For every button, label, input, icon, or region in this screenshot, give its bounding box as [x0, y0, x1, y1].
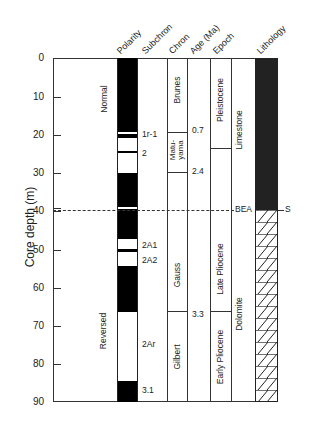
chron-label-brunes: Brunes [172, 70, 182, 110]
column-divider [231, 58, 232, 402]
tick-label: 70 [20, 320, 44, 331]
chron-boundary [167, 172, 187, 173]
limestone-pattern [255, 58, 278, 210]
epoch-boundary [210, 148, 231, 149]
chron-label-gauss: Gauss [172, 255, 182, 295]
polarity-normal-label: Normal [99, 79, 109, 119]
age-label: 0.7 [192, 125, 204, 135]
subchron-label: 2Ar [142, 339, 155, 349]
header-polarity: Polarity [115, 28, 143, 56]
plot-frame [53, 58, 278, 402]
tick-label: 0 [20, 52, 44, 63]
epoch-label-pleistocene: Pleistocene [215, 70, 225, 130]
tick-label: 20 [20, 129, 44, 140]
chron-boundary [167, 311, 187, 312]
lithology-label-dolomite: Dolomite [234, 293, 244, 335]
boundary-label-left: BEA [234, 204, 253, 214]
tick-label: 50 [20, 244, 44, 255]
dolomite-pattern [255, 210, 278, 402]
column-divider [187, 58, 188, 402]
tick-label: 30 [20, 167, 44, 178]
column-divider [210, 58, 211, 402]
tick-label: 90 [20, 396, 44, 407]
boundary-label-right: S [285, 204, 291, 214]
boundary-dashed-line-left [53, 210, 234, 211]
chron-label-matuyama: Matu-yama [169, 133, 185, 167]
epoch-boundary [210, 311, 231, 312]
polarity-column-border [117, 58, 138, 402]
chron-label-gilbert: Gilbert [172, 335, 182, 379]
boundary-tick [53, 208, 61, 209]
tick-label: 80 [20, 358, 44, 369]
dolomite-hatch-icon [256, 210, 277, 402]
tick-label: 40 [20, 205, 44, 216]
y-axis-label: Core depth (m) [23, 177, 37, 277]
subchron-label: 2A1 [142, 240, 157, 250]
epoch-label-early-pliocene: Early Pliocene [215, 321, 225, 393]
header-chron: Chron [167, 32, 191, 56]
chron-label-matuyama-text: Matu-yama [169, 138, 185, 162]
lithology-label-limestone: Limestone [234, 105, 244, 155]
subchron-label: 2A2 [142, 255, 157, 265]
age-label: 3.3 [192, 309, 204, 319]
subchron-label: 3.1 [142, 385, 154, 395]
subchron-label: 2 [142, 148, 147, 158]
boundary-line-right [278, 210, 284, 211]
age-label: 2.4 [192, 166, 204, 176]
tick-label: 60 [20, 282, 44, 293]
polarity-reversed-label: Reversed [98, 306, 108, 356]
header-lithology: Lithology [255, 23, 288, 56]
column-divider [167, 58, 168, 402]
subchron-label: 1r-1 [142, 129, 157, 139]
tick-label: 10 [20, 91, 44, 102]
epoch-label-late-pliocene: Late Pliocene [215, 235, 225, 303]
